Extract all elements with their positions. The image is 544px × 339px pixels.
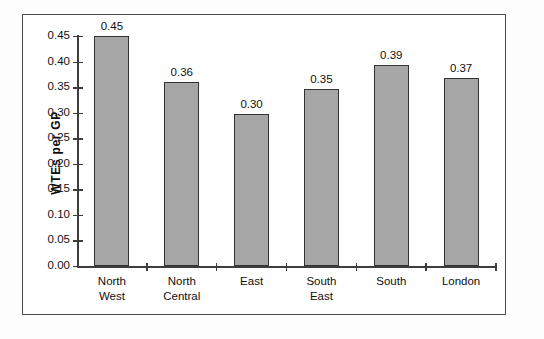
bar-value-label: 0.45 xyxy=(101,19,123,33)
x-axis-tick xyxy=(356,263,357,271)
bar: 0.45 xyxy=(94,36,129,266)
y-axis-tick xyxy=(73,113,83,114)
x-axis-category-label: London xyxy=(442,274,480,289)
bar-value-label: 0.39 xyxy=(380,48,402,62)
bar-value-label: 0.36 xyxy=(171,65,193,79)
y-axis-tick-label: 0.30 xyxy=(48,105,70,120)
y-axis-tick xyxy=(73,266,83,267)
y-axis-tick xyxy=(73,164,83,165)
y-axis-tick-label: 0.25 xyxy=(48,130,70,145)
bar: 0.37 xyxy=(444,78,479,266)
y-axis-tick xyxy=(73,87,83,88)
y-axis-tick xyxy=(73,215,83,216)
bar: 0.30 xyxy=(234,114,269,266)
bar-value-label: 0.35 xyxy=(310,72,332,86)
y-axis-tick xyxy=(73,189,83,190)
y-axis-tick-label: 0.35 xyxy=(48,79,70,94)
y-axis-tick-label: 0.10 xyxy=(48,207,70,222)
x-axis-category-label: East xyxy=(240,274,263,289)
y-axis-tick-label: 0.05 xyxy=(48,232,70,247)
x-axis-category-label: NorthWest xyxy=(98,274,126,303)
y-axis-line xyxy=(77,35,79,267)
bar: 0.39 xyxy=(374,65,409,266)
x-axis-category-label: South xyxy=(376,274,406,289)
y-axis-tick-label: 0.20 xyxy=(48,156,70,171)
x-axis-category-label: SouthEast xyxy=(306,274,336,303)
y-axis-tick-label: 0.40 xyxy=(48,54,70,69)
bar-value-label: 0.37 xyxy=(450,61,472,75)
y-axis-tick xyxy=(73,36,83,37)
x-axis-tick xyxy=(286,263,287,271)
chart-frame: WTEs per GP 0.000.050.100.150.200.250.30… xyxy=(22,14,506,315)
x-axis-tick xyxy=(495,263,496,271)
x-axis-tick xyxy=(425,263,426,271)
bar-value-label: 0.30 xyxy=(240,97,262,111)
chart-page: WTEs per GP 0.000.050.100.150.200.250.30… xyxy=(0,0,544,339)
y-axis-tick xyxy=(73,62,83,63)
x-axis-tick xyxy=(146,263,147,271)
y-axis-tick-label: 0.00 xyxy=(48,258,70,273)
y-axis-tick-label: 0.15 xyxy=(48,181,70,196)
x-axis-tick xyxy=(216,263,217,271)
bar: 0.35 xyxy=(304,89,339,266)
y-axis-tick-label: 0.45 xyxy=(48,28,70,43)
y-axis-tick xyxy=(73,138,83,139)
plot-area: 0.000.050.100.150.200.250.300.350.400.45… xyxy=(77,36,496,266)
y-axis-tick xyxy=(73,240,83,241)
x-axis-category-label: NorthCentral xyxy=(163,274,200,303)
bar: 0.36 xyxy=(164,82,199,266)
